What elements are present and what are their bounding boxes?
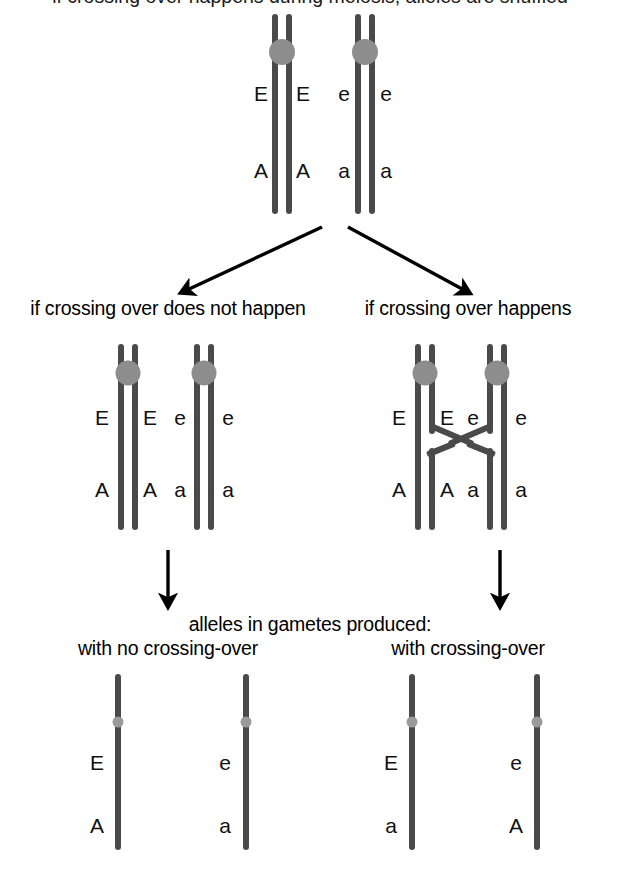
allele-label: E	[392, 407, 406, 428]
gamete-label-right: with crossing-over	[391, 638, 545, 659]
chromatid-upper-arm	[429, 344, 435, 434]
allele-label: E	[296, 83, 310, 104]
allele-label: A	[509, 815, 523, 836]
allele-label: a	[174, 479, 186, 500]
allele-label: e	[380, 83, 392, 104]
allele-label: e	[515, 407, 527, 428]
allele-label: A	[392, 479, 406, 500]
allele-label: A	[90, 815, 104, 836]
gamete-label-left: with no crossing-over	[78, 638, 258, 659]
allele-label: E	[384, 752, 398, 773]
crossing-over-diagram: if crossing over happens during meiosis,…	[0, 0, 620, 871]
centromere	[352, 39, 378, 65]
centromere	[532, 717, 543, 728]
allele-label: A	[143, 479, 157, 500]
chromatid	[409, 674, 415, 850]
allele-label: a	[385, 815, 397, 836]
chromatid-upper-arm	[487, 344, 493, 434]
allele-label: e	[222, 407, 234, 428]
allele-label: E	[440, 407, 454, 428]
branch-label-right: if crossing over happens	[365, 298, 572, 319]
allele-label: A	[440, 479, 454, 500]
allele-label: A	[95, 479, 109, 500]
centromere	[413, 361, 438, 386]
allele-label: a	[338, 160, 350, 181]
centromere	[113, 717, 124, 728]
arrow-to-crossover	[348, 227, 464, 290]
allele-label: a	[515, 479, 527, 500]
allele-label: e	[219, 752, 231, 773]
allele-label: e	[510, 752, 522, 773]
centromere	[269, 39, 295, 65]
allele-label: E	[254, 83, 268, 104]
chromatid-lower-arm	[429, 448, 435, 530]
allele-label: a	[222, 479, 234, 500]
allele-label: a	[380, 160, 392, 181]
allele-label: E	[95, 407, 109, 428]
chromatid	[534, 674, 540, 850]
chromatid	[115, 674, 121, 850]
allele-label: a	[467, 479, 479, 500]
diagram-title: if crossing over happens during meiosis,…	[52, 0, 568, 7]
allele-label: A	[254, 160, 268, 181]
allele-label: E	[90, 752, 104, 773]
branch-label-left: if crossing over does not happen	[30, 298, 305, 319]
chromatid-lower-arm	[487, 448, 493, 530]
centromere	[241, 717, 252, 728]
chromatid	[243, 674, 249, 850]
allele-label: e	[338, 83, 350, 104]
centromere	[116, 361, 141, 386]
gametes-heading: alleles in gametes produced:	[189, 614, 432, 635]
allele-label: A	[296, 160, 310, 181]
allele-label: E	[143, 407, 157, 428]
allele-label: e	[467, 407, 479, 428]
arrow-to-no-crossover	[187, 227, 322, 290]
centromere	[192, 361, 217, 386]
allele-label: e	[174, 407, 186, 428]
arrow-layer	[0, 0, 620, 871]
allele-label: a	[219, 815, 231, 836]
centromere	[485, 361, 510, 386]
centromere	[407, 717, 418, 728]
